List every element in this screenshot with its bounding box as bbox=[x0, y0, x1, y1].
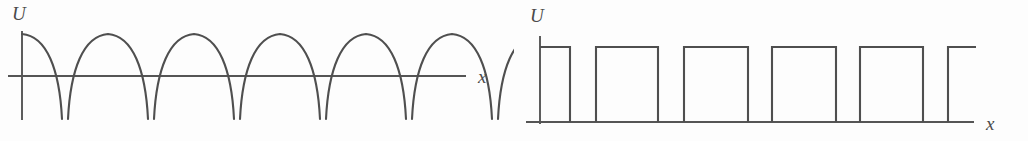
right-x-axis-label: x bbox=[985, 113, 995, 134]
right-y-axis-label: U bbox=[530, 5, 545, 26]
waveform-figure: U x U x bbox=[0, 0, 1028, 141]
left-x-axis-label: x bbox=[477, 66, 487, 87]
panel-square-pulse-train: U x bbox=[514, 0, 1028, 141]
left-y-axis-label: U bbox=[12, 3, 27, 24]
right-waveform-svg: U x bbox=[514, 0, 1028, 141]
left-waveform-svg: U x bbox=[0, 0, 514, 141]
panel-full-wave-rectified: U x bbox=[0, 0, 514, 141]
right-square-pulse-curve bbox=[540, 47, 976, 122]
